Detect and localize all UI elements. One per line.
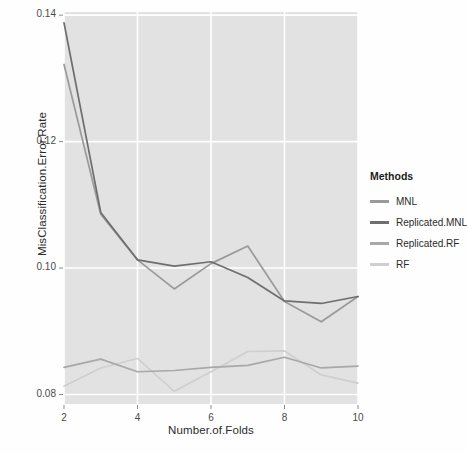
legend-item-label: RF [396,259,409,270]
x-axis-tick-label: 8 [270,412,300,423]
legend-item-label: Replicated.RF [396,238,459,249]
legend-item-rf[interactable]: RF [370,254,466,275]
legend-color-swatch [370,263,389,265]
legend-item-label: MNL [396,196,417,207]
y-axis-title: MisClassification.Error.Rate [36,64,48,304]
legend-item-replicated-rf[interactable]: Replicated.RF [370,233,466,254]
x-axis-tick-label: 10 [343,412,373,423]
legend-color-swatch [370,242,389,244]
legend: Methods MNLReplicated.MNLReplicated.RFRF [370,170,466,275]
legend-item-mnl[interactable]: MNL [370,191,466,212]
y-axis-tick-label: 0.10 [14,261,56,272]
y-axis-tick-label: 0.08 [14,388,56,399]
legend-item-label: Replicated.MNL [396,217,467,228]
x-axis-tick-label: 4 [123,412,153,423]
legend-color-swatch [370,200,389,202]
x-axis-tick-label: 6 [196,412,226,423]
legend-color-swatch [370,221,389,223]
legend-item-replicated-mnl[interactable]: Replicated.MNL [370,212,466,233]
legend-title: Methods [370,170,466,182]
y-axis-tick-label: 0.14 [14,8,56,19]
x-axis-tick-label: 2 [49,412,79,423]
x-axis-title: Number.of.Folds [64,424,358,436]
y-axis-tick-label: 0.12 [14,135,56,146]
